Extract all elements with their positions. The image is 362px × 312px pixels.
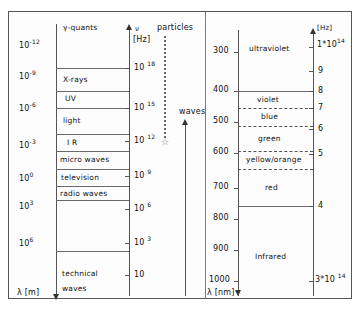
band-label-technical-waves-line2: waves	[62, 285, 87, 293]
frequency-axis-unit-hz: [Hz]	[133, 36, 150, 44]
color-separator-green-yellow	[238, 151, 313, 152]
left-frequency-axis-line	[129, 30, 130, 296]
color-band-label-green: green	[258, 135, 281, 143]
frequency-tick-10e1: 10	[134, 271, 145, 279]
right-wavelength-axis-arrowhead	[235, 290, 241, 296]
wavelength-tick-10e3: 103	[19, 203, 34, 211]
color-separator-uv-violet	[238, 91, 313, 92]
right-frequency-tick-4: 4	[318, 202, 323, 210]
nm-tick-600: 600	[213, 148, 229, 156]
frequency-tick-mark-10e1	[125, 275, 130, 276]
band-label-technical-waves-line1: technical	[62, 270, 98, 278]
band-separator-gamma-xray	[56, 68, 129, 69]
band-separator-ir-micro	[56, 151, 129, 152]
figure-frame: 10-12 10-9 10-6 10-3 100 103 106 λ [m]	[8, 11, 352, 299]
right-frequency-tick-mark-3e14	[309, 281, 314, 282]
wavelength-tick-10e-6: 10-6	[19, 105, 36, 113]
right-frequency-tick-mark-7	[309, 108, 314, 109]
right-frequency-tick-mark-5	[309, 154, 314, 155]
nm-tick-mark-700	[234, 188, 239, 189]
wavelength-tick-10e0: 100	[19, 175, 34, 183]
band-label-x-rays: X-rays	[63, 76, 88, 84]
wavelength-tick-10e-9: 10-9	[19, 73, 36, 81]
particles-arrow-marker-icon: ☆	[161, 138, 169, 147]
frequency-tick-10e3: 10 3	[134, 239, 151, 247]
electromagnetic-spectrum-figure: 10-12 10-9 10-6 10-3 100 103 106 λ [m]	[0, 0, 362, 312]
color-band-label-infrared: Infrared	[255, 253, 286, 261]
nm-tick-800: 800	[213, 214, 229, 222]
color-band-label-red: red	[265, 184, 278, 192]
right-frequency-tick-6: 6	[318, 125, 323, 133]
color-band-label-yellow-orange: yellow/orange	[246, 156, 301, 164]
wavelength-tick-10e-3: 10-3	[19, 142, 36, 150]
nm-tick-1000: 1000	[209, 276, 230, 284]
right-frequency-tick-mark-6	[309, 129, 314, 130]
color-separator-yellow-red	[238, 169, 313, 170]
frequency-tick-mark-10e15	[125, 108, 130, 109]
band-label-radio-waves: radio waves	[60, 190, 107, 198]
band-label-gamma-quants: γ-quants	[63, 24, 97, 32]
right-frequency-tick-7: 7	[318, 104, 323, 112]
frequency-tick-mark-10e18	[125, 68, 130, 69]
nm-tick-mark-500	[234, 122, 239, 123]
right-frequency-tick-8: 8	[318, 87, 323, 95]
band-label-television: television	[61, 174, 99, 182]
band-separator-radio-bottom	[56, 200, 129, 201]
color-separator-violet-blue	[238, 108, 313, 109]
right-frequency-tick-mark-8	[309, 91, 314, 92]
band-separator-micro-tv	[56, 169, 129, 170]
left-wavelength-axis-arrowhead	[53, 294, 59, 300]
band-label-uv: UV	[65, 95, 76, 103]
frequency-tick-10e6: 10 6	[134, 205, 151, 213]
left-wavelength-axis-line	[56, 24, 57, 296]
band-separator-light-ir	[56, 134, 129, 135]
nm-tick-400: 400	[213, 86, 229, 94]
nm-tick-mark-800	[234, 219, 239, 220]
band-separator-tv-radio	[56, 186, 129, 187]
wavelength-axis-label-nm: λ [nm]	[207, 289, 235, 297]
color-band-label-ultraviolet: ultraviolet	[249, 45, 289, 53]
right-wavelength-axis-line	[238, 30, 239, 296]
frequency-tick-mark-10e9	[125, 176, 130, 177]
band-label-ir: I R	[67, 139, 77, 147]
right-frequency-tick-mark-9	[309, 71, 314, 72]
band-separator-technical-top	[56, 251, 129, 252]
right-frequency-tick-9: 9	[318, 67, 323, 75]
color-separator-blue-green	[238, 126, 313, 127]
frequency-tick-10e15: 10 15	[134, 104, 155, 112]
right-frequency-tick-mark-4	[309, 206, 314, 207]
frequency-tick-mark-10e12	[125, 141, 130, 142]
frequency-tick-10e12: 10 12	[134, 137, 155, 145]
frequency-tick-10e18: 10 18	[134, 64, 155, 72]
frequency-axis-symbol-nu: ν	[135, 26, 139, 33]
nm-tick-900: 900	[213, 245, 229, 253]
color-band-label-blue: blue	[261, 113, 278, 121]
annotation-label-particles: particles	[157, 24, 193, 32]
nm-tick-mark-300	[234, 52, 239, 53]
band-separator-uv-light	[56, 108, 129, 109]
right-frequency-tick-mark-1e14	[309, 47, 314, 48]
right-frequency-axis-line	[313, 34, 314, 296]
annotation-label-waves: waves	[179, 108, 205, 116]
frequency-tick-10e9: 10 9	[134, 172, 151, 180]
left-frequency-axis-arrowhead	[126, 24, 132, 30]
right-frequency-tick-3e14: 3*10 14	[315, 276, 346, 284]
particles-direction-line	[164, 36, 166, 138]
frequency-tick-mark-10e3	[125, 243, 130, 244]
nm-tick-300: 300	[213, 47, 229, 55]
panel-divider	[205, 12, 206, 299]
nm-tick-700: 700	[213, 183, 229, 191]
right-frequency-axis-arrowhead	[310, 28, 316, 34]
frequency-tick-mark-10e6	[125, 209, 130, 210]
band-separator-xray-uv	[56, 91, 129, 92]
band-label-micro-waves: micro waves	[60, 156, 109, 164]
right-frequency-tick-1e14: 1*1014	[317, 41, 345, 49]
color-separator-red-infrared	[238, 206, 313, 207]
nm-tick-mark-900	[234, 250, 239, 251]
right-frequency-tick-5: 5	[318, 150, 323, 158]
color-band-label-violet: violet	[257, 96, 279, 104]
wavelength-axis-label-m: λ [m]	[17, 289, 39, 297]
right-frequency-axis-unit-hz: [Hz]	[317, 25, 332, 32]
nm-tick-500: 500	[213, 117, 229, 125]
nm-tick-mark-1000	[234, 281, 239, 282]
